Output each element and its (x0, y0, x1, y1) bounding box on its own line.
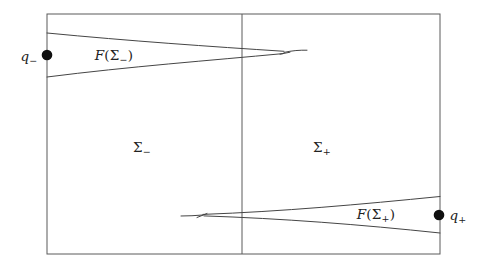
label-q-minus-sub: − (29, 55, 37, 66)
f-sigma-plus-horn-whisker (181, 215, 203, 216)
label-f-sigma-minus-sub: − (120, 54, 128, 65)
label-f-sigma-minus: F(Σ−) (95, 49, 133, 63)
label-q-minus-base: q (20, 48, 29, 64)
label-f-sigma-plus-f: F (357, 206, 367, 222)
label-f-sigma-plus: F(Σ+) (357, 208, 395, 222)
label-q-plus: q+ (449, 209, 466, 223)
label-sigma-plus-sub: + (323, 146, 331, 157)
label-f-sigma-plus-open: (Σ (366, 206, 381, 222)
point-q-plus (434, 210, 445, 221)
label-sigma-minus-base: Σ (133, 139, 143, 155)
label-f-sigma-minus-open: (Σ (104, 47, 119, 63)
label-sigma-minus: Σ− (133, 141, 151, 155)
mathematical-figure: q− F(Σ−) Σ− Σ+ F(Σ+) q+ (0, 0, 488, 269)
label-sigma-minus-sub: − (143, 146, 151, 157)
f-sigma-plus-horn-lower-curve (204, 216, 440, 233)
label-sigma-plus: Σ+ (313, 141, 331, 155)
f-sigma-minus-horn-lower-curve (47, 54, 283, 77)
label-q-plus-sub: + (458, 214, 466, 225)
label-f-sigma-plus-sub: + (382, 213, 390, 224)
point-q-minus (42, 50, 53, 61)
figure-canvas (0, 0, 488, 269)
label-q-minus: q− (20, 50, 37, 64)
f-sigma-minus-horn-upper-curve (47, 33, 284, 51)
label-f-sigma-plus-close: ) (390, 206, 395, 222)
f-sigma-minus-horn-whisker (284, 50, 307, 52)
label-f-sigma-minus-f: F (95, 47, 105, 63)
label-f-sigma-minus-close: ) (128, 47, 133, 63)
f-sigma-plus-horn-upper-curve (203, 197, 440, 215)
label-sigma-plus-base: Σ (313, 139, 323, 155)
label-q-plus-base: q (449, 207, 458, 223)
